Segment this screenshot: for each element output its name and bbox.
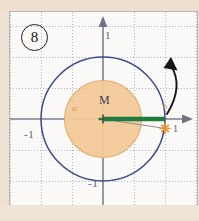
y-axis-arrowhead <box>99 16 108 27</box>
exercise-number-text: 8 <box>31 29 39 46</box>
point-label: 1 <box>173 124 178 134</box>
scanned-page: 1 -1 -1 M a b 1 8 <box>0 0 199 221</box>
axis-label-x-left: -1 <box>24 129 34 140</box>
paper-margin-bottom <box>0 205 199 221</box>
axis-label-y-bottom: -1 <box>88 178 98 189</box>
paper-margin-top <box>0 0 199 9</box>
x-axis-arrowhead <box>182 115 193 124</box>
inner-circle-label: a <box>72 104 77 113</box>
segment-label: b <box>163 102 168 111</box>
figure-panel: 1 -1 -1 M a b 1 8 <box>9 11 198 209</box>
exercise-number-badge: 8 <box>21 24 48 51</box>
point-marker-1 <box>160 123 171 134</box>
center-label: M <box>99 94 110 106</box>
axis-label-y-top: 1 <box>105 30 111 41</box>
